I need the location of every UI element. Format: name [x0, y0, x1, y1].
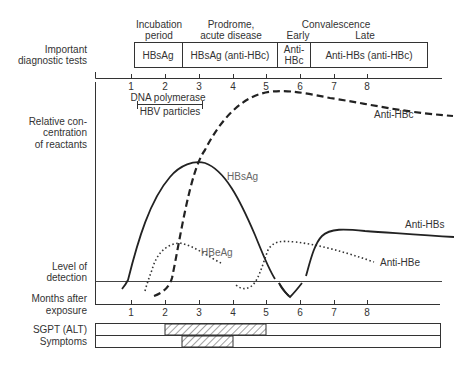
- sgpt-label: SGPT (ALT): [33, 324, 87, 335]
- symptoms-label: Symptoms: [40, 336, 87, 347]
- y-axis-label-2: centration: [43, 127, 87, 138]
- test-antihbc: Anti-: [284, 44, 305, 55]
- svg-text:5: 5: [263, 307, 269, 318]
- symptoms-bar: [96, 336, 441, 348]
- svg-text:4: 4: [230, 307, 236, 318]
- svg-text:3: 3: [196, 307, 202, 318]
- svg-text:5: 5: [263, 81, 269, 92]
- bottom-axis-ticks: 1 2 3 4 5 6 7 8: [128, 307, 370, 318]
- phase-incubation-label: Incubation: [136, 19, 182, 30]
- hbeag-label: HBeAg: [201, 247, 233, 258]
- anti-hbc-label: Anti-HBc: [374, 109, 413, 120]
- phase-early-label: Early: [287, 30, 310, 41]
- bottom-axis: [96, 300, 441, 305]
- phase-convalescence-label: Convalescence: [302, 19, 371, 30]
- svg-text:7: 7: [331, 307, 337, 318]
- phase-late-label: Late: [355, 30, 375, 41]
- y-axis-label-3: of reactants: [35, 139, 87, 150]
- anti-hbs-label: Anti-HBs: [405, 219, 444, 230]
- svg-text:6: 6: [297, 307, 303, 318]
- svg-text:4: 4: [230, 81, 236, 92]
- svg-text:3: 3: [196, 81, 202, 92]
- x-axis-label: Months after: [31, 293, 87, 304]
- svg-text:1: 1: [128, 307, 134, 318]
- phase-prodrome-label-2: acute disease: [200, 30, 262, 41]
- svg-text:1: 1: [128, 81, 134, 92]
- sgpt-bar: [96, 324, 441, 336]
- top-axis: [96, 72, 443, 79]
- hbv-particles-label: HBV particles: [140, 106, 201, 117]
- svg-text:2: 2: [162, 81, 168, 92]
- svg-text:7: 7: [331, 81, 337, 92]
- svg-text:8: 8: [364, 81, 370, 92]
- diagnostic-label: Important: [45, 44, 87, 55]
- x-axis-label-2: exposure: [46, 305, 88, 316]
- detection-label-2: detection: [46, 272, 87, 283]
- anti-hbs-curve: [306, 230, 454, 276]
- anti-hbe-label: Anti-HBe: [380, 257, 420, 268]
- hbsag-label: HBsAg: [227, 171, 258, 182]
- svg-text:6: 6: [297, 81, 303, 92]
- test-antihbs-antihbc: Anti-HBs (anti-HBc): [325, 50, 412, 61]
- hbv-serology-diagram: Incubation period Prodrome, acute diseas…: [0, 0, 471, 366]
- svg-text:2: 2: [162, 307, 168, 318]
- dna-polymerase-label: DNA polymerase: [130, 92, 205, 103]
- test-hbsag: HBsAg: [142, 50, 173, 61]
- svg-text:8: 8: [364, 307, 370, 318]
- test-hbsag-antihbc: HBsAg (anti-HBc): [191, 50, 270, 61]
- phase-prodrome-label: Prodrome,: [208, 19, 255, 30]
- y-axis-label: Relative con-: [29, 116, 87, 127]
- test-antihbc-2: HBc: [285, 55, 304, 66]
- phase-incubation-label-2: period: [145, 30, 173, 41]
- diagnostic-label-2: diagnostic tests: [18, 55, 87, 66]
- top-axis-ticks: 1 2 3 4 5 6 7 8: [128, 81, 370, 92]
- detection-label: Level of: [52, 261, 87, 272]
